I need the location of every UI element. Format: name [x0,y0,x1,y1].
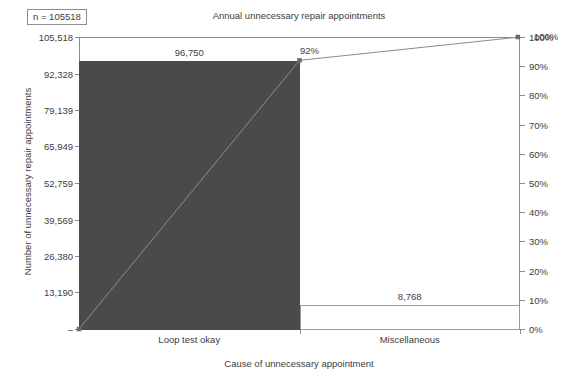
y-tick-label-left: 92,328 [44,68,73,79]
y-tick-label-right: 30% [529,236,548,247]
y-tick-label-right: 50% [529,178,548,189]
cumulative-polyline [79,37,520,329]
y-axis-title: Number of unnecessary repair appointment… [22,47,33,317]
plot-area: –13,19026,38039,56952,75965,94979,13992,… [79,37,520,330]
y-tick-label-left: 39,569 [44,214,73,225]
y-tick-label-right: 20% [529,265,548,276]
cumulative-marker [516,35,521,40]
bar-value-label: 96,750 [175,47,204,58]
y-tick-label-right: 80% [529,90,548,101]
y-tick-label-left: 52,759 [44,178,73,189]
y-tick-label-right: 10% [529,294,548,305]
cumulative-value-label: 92% [300,45,319,56]
y-tick-label-right: 70% [529,119,548,130]
y-tick-label-left: 105,518 [39,32,73,43]
bar-value-label: 8,768 [398,291,422,302]
y-tick-label-left: 79,139 [44,104,73,115]
y-tick-label-left: 65,949 [44,141,73,152]
cumulative-marker [77,327,82,332]
y-tick-label-right: 60% [529,148,548,159]
category-tick-mark-icon [520,329,521,334]
y-tick-label-left: – [68,324,73,335]
x-axis-title: Cause of unnecessary appointment [78,358,520,370]
y-tick-label-right: 90% [529,61,548,72]
y-tick-label-right: 40% [529,207,548,218]
y-tick-label-right: 0% [529,324,543,335]
category-label: Miscellaneous [380,334,440,346]
cumulative-line [79,37,520,330]
category-label: Loop test okay [158,334,220,346]
pareto-chart: n = 105518 Annual unnecessary repair app… [0,0,573,380]
y-tick-label-left: 13,190 [44,287,73,298]
cumulative-marker [297,58,302,63]
y-tick-label-left: 26,380 [44,250,73,261]
cumulative-value-label: 100% [534,31,558,42]
chart-title: Annual unnecessary repair appointments [78,10,520,22]
